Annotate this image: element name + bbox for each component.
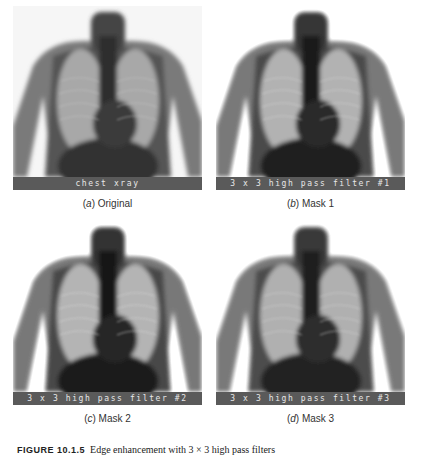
subcaption-text: Original [98, 198, 132, 209]
overlay-label: 3 x 3 high pass filter #1 [216, 177, 405, 190]
figure-caption: FIGURE 10.1.5 Edge enhancement with 3 × … [17, 444, 417, 456]
subcaption-text: Mask 3 [302, 413, 334, 424]
chest-xray-image [216, 221, 405, 392]
subcaption-letter: d [290, 413, 296, 424]
subcaption-c: (c) Mask 2 [13, 413, 202, 424]
overlay-label: chest xray [13, 177, 202, 190]
figure-caption-text: Edge enhancement with 3 × 3 high pass fi… [90, 444, 275, 455]
panel-a-original: chest xray [13, 6, 202, 190]
subcaption-d: (d) Mask 3 [216, 413, 405, 424]
overlay-label: 3 x 3 high pass filter #3 [216, 392, 405, 405]
subcaption-a: (a) Original [13, 198, 202, 209]
chest-xray-image [13, 6, 202, 177]
figure-number: FIGURE 10.1.5 [17, 445, 85, 455]
panel-b-mask1: 3 x 3 high pass filter #1 [216, 6, 405, 190]
chest-xray-image [13, 221, 202, 392]
overlay-label: 3 x 3 high pass filter #2 [13, 392, 202, 405]
panel-c-mask2: 3 x 3 high pass filter #2 [13, 221, 202, 405]
subcaption-letter: b [290, 198, 296, 209]
chest-xray-image [216, 6, 405, 177]
subcaption-b: (b) Mask 1 [216, 198, 405, 209]
panel-d-mask3: 3 x 3 high pass filter #3 [216, 221, 405, 405]
subcaption-letter: c [88, 413, 93, 424]
subcaption-letter: a [86, 198, 92, 209]
subcaption-text: Mask 1 [302, 198, 334, 209]
subcaption-text: Mask 2 [99, 413, 131, 424]
